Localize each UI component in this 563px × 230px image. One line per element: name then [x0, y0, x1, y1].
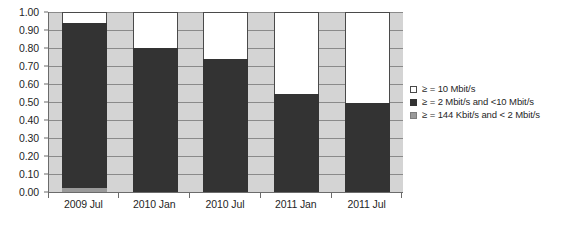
x-axis: 2009 Jul 2010 Jan 2010 Jul 2011 Jan 2011… — [48, 199, 402, 211]
y-tick-label: 0.10 — [19, 169, 39, 180]
bar-stack-2010-jan[interactable] — [133, 12, 178, 192]
legend-label: ≥ = 2 Mbit/s and <10 Mbit/s — [422, 97, 534, 108]
bar-segment-2to10mbit — [203, 59, 248, 192]
bar-slot — [49, 12, 120, 192]
x-tick-mark — [331, 193, 332, 198]
legend-item-144kto2mbit[interactable]: ≥ = 144 Kbit/s and < 2 Mbit/s — [410, 110, 562, 121]
legend-label: ≥ = 10 Mbit/s — [422, 84, 475, 95]
bar-slot — [120, 12, 191, 192]
bar-slot — [332, 12, 403, 192]
legend-item-2to10mbit[interactable]: ≥ = 2 Mbit/s and <10 Mbit/s — [410, 97, 562, 108]
y-tick-label: 0.50 — [19, 97, 39, 108]
bar-segment-10mbit — [345, 12, 390, 103]
x-tick-label: 2011 Jul — [331, 199, 402, 211]
bar-segment-10mbit — [62, 12, 107, 23]
bar-slot — [191, 12, 262, 192]
chart-legend: ≥ = 10 Mbit/s ≥ = 2 Mbit/s and <10 Mbit/… — [410, 84, 562, 123]
plot-area — [48, 12, 403, 193]
legend-item-10mbit[interactable]: ≥ = 10 Mbit/s — [410, 84, 562, 95]
chart-container: 1.00 0.90 0.80 0.70 0.60 0.50 0.40 0.30 … — [0, 0, 563, 230]
bar-segment-10mbit — [203, 12, 248, 59]
x-tick-mark — [189, 193, 190, 198]
x-tick-label: 2010 Jul — [190, 199, 261, 211]
bars-layer — [49, 12, 403, 192]
x-tick-mark — [401, 193, 402, 198]
bar-segment-2to10mbit — [62, 23, 107, 189]
y-tick-label: 0.90 — [19, 25, 39, 36]
x-tick-mark — [48, 193, 49, 198]
y-tick-label: 0.70 — [19, 61, 39, 72]
bar-segment-10mbit — [133, 12, 178, 48]
x-tick-label: 2009 Jul — [48, 199, 119, 211]
y-tick-label: 0.60 — [19, 79, 39, 90]
bar-stack-2011-jan[interactable] — [274, 12, 319, 192]
y-tick-label: 0.40 — [19, 115, 39, 126]
bar-segment-10mbit — [274, 12, 319, 94]
bar-segment-144kto2mbit — [62, 188, 107, 192]
y-tick-label: 1.00 — [19, 7, 39, 18]
bar-stack-2010-jul[interactable] — [203, 12, 248, 192]
bar-slot — [261, 12, 332, 192]
y-tick-label: 0.20 — [19, 151, 39, 162]
bar-segment-2to10mbit — [345, 103, 390, 192]
x-tick-mark — [260, 193, 261, 198]
y-tick-label: 0.80 — [19, 43, 39, 54]
y-axis: 1.00 0.90 0.80 0.70 0.60 0.50 0.40 0.30 … — [0, 12, 44, 192]
x-tick-label: 2011 Jan — [260, 199, 331, 211]
bar-segment-2to10mbit — [274, 94, 319, 192]
y-tick-label: 0.30 — [19, 133, 39, 144]
legend-swatch-black-icon — [410, 99, 417, 106]
legend-swatch-white-icon — [410, 86, 417, 93]
x-tick-label: 2010 Jan — [119, 199, 190, 211]
y-tick-label: 0.00 — [19, 187, 39, 198]
bar-stack-2009-jul[interactable] — [62, 12, 107, 192]
bar-segment-2to10mbit — [133, 48, 178, 192]
bar-stack-2011-jul[interactable] — [345, 12, 390, 192]
legend-swatch-gray-icon — [410, 112, 417, 119]
legend-label: ≥ = 144 Kbit/s and < 2 Mbit/s — [422, 110, 540, 121]
x-tick-mark — [118, 193, 119, 198]
